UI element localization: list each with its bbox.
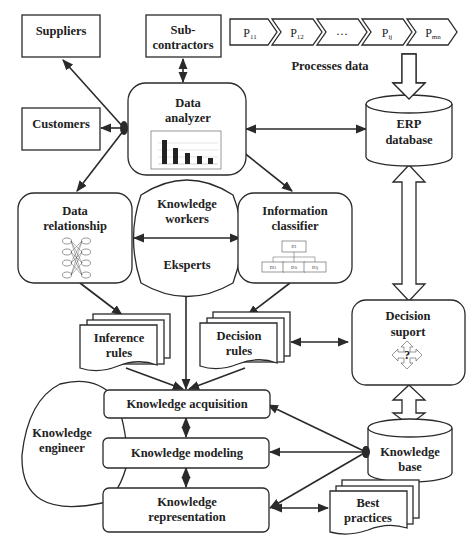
knowledge-base-label-2: base — [398, 460, 422, 474]
knowledge-modeling-box[interactable]: Knowledge modeling — [103, 438, 269, 468]
process-step[interactable]: P11 — [230, 19, 277, 45]
decision-support-box[interactable]: Decision suport ? — [352, 300, 465, 385]
svg-text:D1j: D1j — [312, 265, 318, 270]
svg-text:…: … — [336, 24, 348, 38]
process-step[interactable]: Pmn — [407, 19, 457, 45]
knowledge-workers-label-1: Knowledge — [157, 197, 217, 211]
inference-rules-label-1: Inference — [94, 331, 145, 345]
customers-box[interactable]: Customers — [22, 108, 100, 150]
best-practices-label-2: practices — [344, 511, 392, 525]
information-classifier-label-1: Information — [262, 204, 327, 218]
svg-text:D1i: D1i — [291, 265, 298, 270]
erp-database-label-1: ERP — [397, 117, 422, 131]
process-step[interactable]: … — [317, 19, 367, 45]
decision-rules-docs[interactable]: Decision rules — [200, 312, 290, 369]
process-step[interactable]: P12 — [272, 19, 322, 45]
inference-rules-label-2: rules — [106, 346, 133, 360]
knowledge-workers-label-2: workers — [165, 212, 209, 226]
subcontractors-box[interactable]: Sub- contractors — [146, 15, 221, 57]
data-relationship-label-2: relationship — [43, 219, 107, 233]
suppliers-label: Suppliers — [36, 24, 87, 38]
inference-rules-docs[interactable]: Inference rules — [80, 314, 170, 371]
bar-chart-icon — [151, 131, 221, 169]
information-classifier-box[interactable]: Information classifier D1 D11 D1i D1j — [238, 193, 352, 283]
svg-text:D1: D1 — [292, 244, 297, 249]
knowledge-engineer-label-2: engineer — [39, 441, 85, 455]
subcontractors-label-2: contractors — [152, 38, 213, 52]
erp-database-label-2: database — [385, 133, 433, 147]
suppliers-box[interactable]: Suppliers — [22, 15, 100, 57]
knowledge-engineer-label-1: Knowledge — [32, 426, 92, 440]
kb-junction — [362, 446, 370, 458]
decision-rules-label-2: rules — [226, 344, 253, 358]
best-practices-docs[interactable]: Best practices — [330, 480, 419, 534]
knowledge-acquisition-label: Knowledge acquisition — [126, 397, 247, 411]
question-mark: ? — [404, 348, 410, 362]
information-classifier-label-2: classifier — [271, 219, 319, 233]
best-practices-label-1: Best — [357, 496, 381, 510]
processes-data-label: Processes data — [291, 59, 369, 73]
knowledge-base-label-1: Knowledge — [380, 445, 440, 459]
knowledge-modeling-label: Knowledge modeling — [131, 446, 244, 460]
knowledge-representation-label-2: representation — [148, 510, 225, 524]
process-step[interactable]: Pij — [362, 19, 412, 45]
knowledge-acquisition-box[interactable]: Knowledge acquisition — [104, 390, 270, 418]
knowledge-base-cylinder[interactable]: Knowledge base — [368, 419, 452, 482]
svg-text:D11: D11 — [270, 265, 277, 270]
data-analyzer-label-1: Data — [175, 96, 201, 110]
data-analyzer-label-2: analyzer — [165, 111, 211, 125]
subcontractors-label-1: Sub- — [170, 23, 195, 37]
data-relationship-label-1: Data — [62, 204, 88, 218]
customers-label: Customers — [32, 117, 90, 131]
knowledge-representation-box[interactable]: Knowledge representation — [103, 488, 269, 532]
decision-support-label-2: suport — [391, 325, 427, 339]
decision-rules-label-1: Decision — [216, 329, 261, 343]
erp-database-cylinder[interactable]: ERP database — [366, 54, 452, 166]
processes-chain: P11 P12 … Pij Pmn Processes data — [230, 19, 457, 73]
decision-support-label-1: Decision — [385, 309, 430, 323]
knowledge-management-diagram: Suppliers Sub- contractors Customers P11… — [0, 0, 475, 551]
data-relationship-box[interactable]: Data relationship — [18, 193, 132, 283]
eksperts-label: Eksperts — [163, 258, 210, 272]
knowledge-representation-label-1: Knowledge — [157, 495, 217, 509]
data-analyzer-box[interactable]: Data analyzer — [128, 83, 246, 175]
